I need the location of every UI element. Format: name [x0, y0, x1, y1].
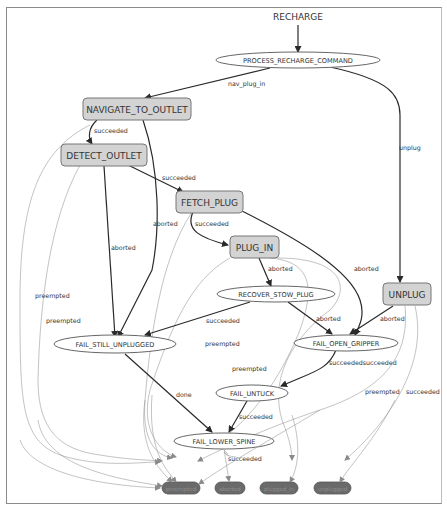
- edge-label-fail-still-done: done: [176, 391, 192, 398]
- svg-text:preempted: preempted: [166, 486, 196, 493]
- edge-label-recover-aborted: aborted: [316, 315, 341, 322]
- edge-label-detect-preempted: preempted: [46, 317, 81, 325]
- edge-label-navigate-succeeded: succeeded: [94, 127, 128, 134]
- state-detect-outlet[interactable]: DETECT_OUTLET: [61, 144, 147, 166]
- edge-label-detect-succeeded: succeeded: [162, 174, 196, 181]
- edge-label-fetch-aborted: aborted: [354, 265, 379, 272]
- edge-label-fail-lower-succeeded: succeeded: [228, 455, 262, 462]
- state-unplug[interactable]: UNPLUG: [383, 283, 431, 305]
- svg-text:PLUG_IN: PLUG_IN: [236, 243, 273, 253]
- svg-text:FAIL_STILL_UNPLUGGED: FAIL_STILL_UNPLUGGED: [76, 341, 155, 349]
- edge-label-fetch-succeeded: succeeded: [195, 220, 229, 227]
- edge-label-navigate-preempted: preempted: [35, 292, 70, 300]
- edge-label-plug-in-preempted: preempted: [232, 365, 267, 373]
- svg-text:plugged_in: plugged_in: [264, 486, 295, 493]
- edge-label-fetch-preempted: preempted: [205, 340, 240, 348]
- state-fail-untuck[interactable]: FAIL_UNTUCK: [216, 385, 288, 401]
- state-process-recharge-command[interactable]: PROCESS_RECHARGE_COMMAND: [216, 52, 380, 68]
- svg-text:PROCESS_RECHARGE_COMMAND: PROCESS_RECHARGE_COMMAND: [243, 57, 353, 65]
- svg-text:aborted: aborted: [219, 486, 241, 492]
- edge-label-unplug-preempted: preempted: [365, 388, 400, 396]
- state-navigate-to-outlet[interactable]: NAVIGATE_TO_OUTLET: [83, 98, 191, 120]
- svg-text:FAIL_OPEN_GRIPPER: FAIL_OPEN_GRIPPER: [313, 340, 380, 348]
- state-fail-still-unplugged[interactable]: FAIL_STILL_UNPLUGGED: [54, 335, 176, 353]
- svg-text:RECOVER_STOW_PLUG: RECOVER_STOW_PLUG: [238, 291, 313, 299]
- svg-text:FETCH_PLUG: FETCH_PLUG: [181, 198, 238, 208]
- edge-label-navigate-aborted: aborted: [153, 220, 178, 227]
- svg-text:FAIL_UNTUCK: FAIL_UNTUCK: [230, 390, 275, 398]
- outcome-plugged-in[interactable]: plugged_in: [260, 482, 298, 494]
- svg-text:UNPLUG: UNPLUG: [389, 290, 426, 300]
- state-fail-open-gripper[interactable]: FAIL_OPEN_GRIPPER: [294, 335, 398, 351]
- state-recover-stow-plug[interactable]: RECOVER_STOW_PLUG: [217, 286, 335, 302]
- edge-label-nav-plug-in: nav_plug_in: [228, 80, 265, 88]
- svg-text:unplugged: unplugged: [318, 486, 347, 493]
- svg-text:DETECT_OUTLET: DETECT_OUTLET: [66, 151, 142, 161]
- edge-label-unplug-succeeded: succeeded: [406, 388, 440, 395]
- outcome-unplugged[interactable]: unplugged: [314, 482, 351, 494]
- edge-label-plug-in-aborted: aborted: [268, 265, 293, 272]
- state-fetch-plug[interactable]: FETCH_PLUG: [176, 191, 243, 213]
- state-fail-lower-spine[interactable]: FAIL_LOWER_SPINE: [174, 433, 274, 449]
- svg-text:FAIL_LOWER_SPINE: FAIL_LOWER_SPINE: [192, 438, 255, 446]
- root-label: RECHARGE: [273, 12, 323, 22]
- edge-label-recover-succeeded: succeeded: [206, 317, 240, 324]
- outcome-aborted[interactable]: aborted: [215, 482, 245, 494]
- edge-label-unplug: unplug: [399, 144, 421, 152]
- state-plug-in[interactable]: PLUG_IN: [230, 236, 279, 258]
- state-machine-diagram: nav_plug_in unplug succeeded aborted pre…: [0, 0, 447, 513]
- svg-text:NAVIGATE_TO_OUTLET: NAVIGATE_TO_OUTLET: [86, 105, 188, 115]
- edge-label-unplug-aborted: aborted: [380, 315, 405, 322]
- edge-label-fail-open-succeeded: succeededsucceeded: [329, 359, 397, 366]
- edge-label-detect-aborted: aborted: [111, 244, 136, 251]
- outcome-preempted[interactable]: preempted: [162, 482, 200, 494]
- edge-labels: nav_plug_in unplug succeeded aborted pre…: [35, 80, 440, 462]
- edge-label-fail-untuck-succeeded: succeeded: [239, 413, 273, 420]
